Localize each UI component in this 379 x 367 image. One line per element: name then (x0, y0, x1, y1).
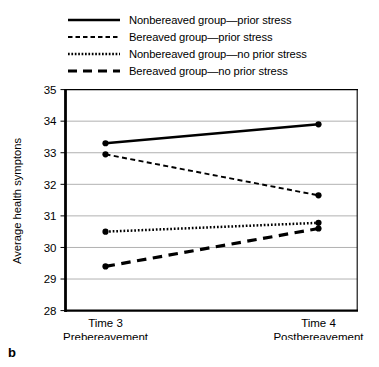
panel-label: b (8, 345, 16, 360)
x-tick-label: Prebereavement (63, 331, 149, 341)
data-series (102, 220, 321, 235)
data-point (315, 192, 321, 198)
y-tick-label: 34 (44, 115, 57, 127)
x-tick-labels: Time 3PrebereavementTime 4Postbereavemen… (63, 317, 364, 340)
data-point (315, 225, 321, 231)
data-point (102, 229, 108, 235)
data-point (102, 151, 108, 157)
plot-frame (65, 89, 358, 312)
y-tick-label: 31 (44, 210, 57, 222)
y-tick-label: 35 (44, 84, 57, 96)
line-chart: Average health symptons 2829303132333435… (0, 0, 379, 340)
data-point (315, 121, 321, 127)
y-tick-labels: 2829303132333435 (44, 84, 66, 317)
y-tick-label: 28 (44, 305, 57, 317)
data-point (102, 140, 108, 146)
data-series (102, 121, 321, 146)
x-tick-label: Time 3 (88, 317, 123, 329)
y-axis-label: Average health symptons (11, 138, 23, 264)
x-tick-label: Postbereavement (273, 331, 364, 341)
data-point (315, 220, 321, 226)
y-tick-label: 33 (44, 147, 57, 159)
y-tick-label: 32 (44, 179, 57, 191)
y-tick-label: 29 (44, 273, 57, 285)
x-tick-label: Time 4 (301, 317, 336, 329)
y-tick-label: 30 (44, 242, 57, 254)
data-series (102, 151, 321, 198)
gridlines (66, 121, 358, 279)
data-point (102, 263, 108, 269)
